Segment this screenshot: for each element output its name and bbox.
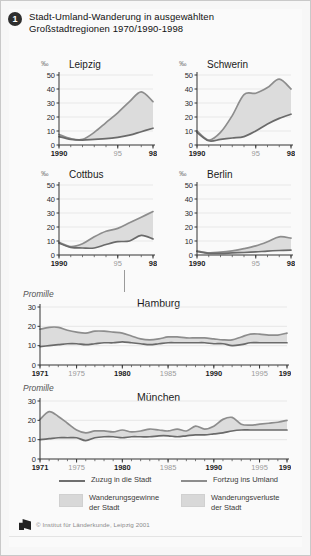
svg-text:50: 50 bbox=[47, 181, 55, 190]
svg-text:98: 98 bbox=[287, 149, 295, 158]
svg-text:1990: 1990 bbox=[205, 463, 222, 472]
chart-berlin-plot: 0102030405019909598 bbox=[177, 181, 295, 275]
svg-text:20: 20 bbox=[185, 113, 193, 122]
svg-text:40: 40 bbox=[185, 85, 193, 94]
svg-text:95: 95 bbox=[114, 149, 122, 158]
figure-number-badge: 1 bbox=[8, 12, 22, 26]
title-line-2: Großstadtregionen 1970/1990-1998 bbox=[29, 23, 214, 35]
line-swatch-icon bbox=[59, 480, 85, 482]
svg-text:98: 98 bbox=[287, 259, 295, 268]
institute-logo-icon bbox=[19, 519, 31, 530]
svg-text:1990: 1990 bbox=[189, 259, 206, 268]
chart-schwerin-title: Schwerin bbox=[207, 59, 248, 70]
svg-text:30: 30 bbox=[185, 99, 193, 108]
legend-item-gewinne: Wanderungsgewinne der Stadt bbox=[59, 493, 159, 512]
figure-header: 1 Stadt-Umland-Wanderung in ausgewählten… bbox=[8, 11, 288, 35]
line-swatch-icon bbox=[181, 480, 207, 482]
credit-text: © Institut für Länderkunde, Leipzig 2001 bbox=[36, 521, 150, 528]
page-title: Stadt-Umland-Wanderung in ausgewählten G… bbox=[29, 11, 214, 35]
svg-text:98: 98 bbox=[149, 149, 157, 158]
area-swatch-icon bbox=[59, 494, 83, 507]
legend-label-zuzug: Zuzug in die Stadt bbox=[91, 475, 151, 485]
svg-text:10: 10 bbox=[28, 341, 36, 350]
svg-text:10: 10 bbox=[47, 237, 55, 246]
hamburg-connector-line bbox=[124, 270, 125, 292]
legend-item-verluste: Wanderungsverluste der Stadt bbox=[181, 493, 280, 512]
svg-text:40: 40 bbox=[47, 195, 55, 204]
svg-text:1980: 1980 bbox=[114, 463, 131, 472]
svg-text:30: 30 bbox=[185, 209, 193, 218]
svg-text:1990: 1990 bbox=[205, 369, 222, 378]
chart-hamburg-plot: 01020301971197519801985199019951998 bbox=[19, 303, 291, 385]
chart-schwerin-ylabel: ‰ bbox=[179, 59, 187, 68]
svg-text:1971: 1971 bbox=[32, 463, 49, 472]
svg-text:50: 50 bbox=[47, 71, 55, 80]
svg-text:20: 20 bbox=[28, 322, 36, 331]
svg-text:1998: 1998 bbox=[279, 369, 291, 378]
bottom-divider bbox=[9, 536, 302, 537]
svg-text:98: 98 bbox=[149, 259, 157, 268]
svg-text:20: 20 bbox=[47, 113, 55, 122]
chart-leipzig-ylabel: ‰ bbox=[41, 59, 49, 68]
svg-text:1995: 1995 bbox=[251, 463, 268, 472]
legend-item-fortzug: Fortzug ins Umland bbox=[181, 475, 278, 485]
area-swatch-icon bbox=[181, 494, 205, 507]
title-line-1: Stadt-Umland-Wanderung in ausgewählten bbox=[29, 11, 214, 23]
legend: Zuzug in die Stadt Fortzug ins Umland bbox=[21, 475, 291, 489]
svg-text:95: 95 bbox=[252, 259, 260, 268]
svg-text:50: 50 bbox=[185, 181, 193, 190]
svg-text:10: 10 bbox=[185, 237, 193, 246]
chart-muenchen-plot: 01020301971197519801985199019951998 bbox=[19, 397, 291, 479]
svg-text:50: 50 bbox=[185, 71, 193, 80]
svg-text:1990: 1990 bbox=[51, 259, 68, 268]
svg-text:1998: 1998 bbox=[279, 463, 291, 472]
chart-berlin-ylabel: ‰ bbox=[179, 169, 187, 178]
legend-areas: Wanderungsgewinne der Stadt Wanderungsve… bbox=[21, 493, 291, 517]
svg-text:30: 30 bbox=[28, 303, 36, 312]
svg-text:10: 10 bbox=[47, 127, 55, 136]
svg-text:1990: 1990 bbox=[51, 149, 68, 158]
svg-text:1985: 1985 bbox=[160, 369, 177, 378]
svg-text:30: 30 bbox=[28, 397, 36, 406]
svg-text:1985: 1985 bbox=[160, 463, 177, 472]
chart-cottbus-title: Cottbus bbox=[69, 169, 103, 180]
chart-berlin-title: Berlin bbox=[207, 169, 233, 180]
chart-cottbus-plot: 0102030405019909598 bbox=[39, 181, 157, 275]
svg-text:95: 95 bbox=[252, 149, 260, 158]
svg-text:10: 10 bbox=[28, 435, 36, 444]
credit-line: © Institut für Länderkunde, Leipzig 2001 bbox=[19, 519, 150, 530]
svg-text:95: 95 bbox=[114, 259, 122, 268]
figure-panel: 1 Stadt-Umland-Wanderung in ausgewählten… bbox=[0, 0, 311, 556]
svg-text:20: 20 bbox=[185, 223, 193, 232]
svg-text:1995: 1995 bbox=[251, 369, 268, 378]
svg-text:1980: 1980 bbox=[114, 369, 131, 378]
svg-text:1971: 1971 bbox=[32, 369, 49, 378]
svg-text:10: 10 bbox=[185, 127, 193, 136]
chart-leipzig-plot: 0102030405019909598 bbox=[39, 71, 157, 165]
legend-label-fortzug: Fortzug ins Umland bbox=[213, 475, 278, 485]
chart-schwerin-plot: 0102030405019909598 bbox=[177, 71, 295, 165]
legend-label-gewinne: Wanderungsgewinne der Stadt bbox=[89, 493, 159, 512]
svg-text:30: 30 bbox=[47, 99, 55, 108]
svg-text:40: 40 bbox=[47, 85, 55, 94]
svg-text:40: 40 bbox=[185, 195, 193, 204]
chart-hamburg-ylabel: Promille bbox=[23, 289, 54, 299]
svg-text:1975: 1975 bbox=[68, 369, 85, 378]
chart-cottbus-ylabel: ‰ bbox=[41, 169, 49, 178]
svg-text:20: 20 bbox=[28, 416, 36, 425]
chart-muenchen-ylabel: Promille bbox=[23, 383, 54, 393]
svg-text:1990: 1990 bbox=[189, 149, 206, 158]
svg-text:1975: 1975 bbox=[68, 463, 85, 472]
legend-item-zuzug: Zuzug in die Stadt bbox=[59, 475, 151, 485]
legend-label-verluste: Wanderungsverluste der Stadt bbox=[211, 493, 280, 512]
chart-leipzig-title: Leipzig bbox=[69, 59, 101, 70]
svg-text:30: 30 bbox=[47, 209, 55, 218]
svg-text:20: 20 bbox=[47, 223, 55, 232]
